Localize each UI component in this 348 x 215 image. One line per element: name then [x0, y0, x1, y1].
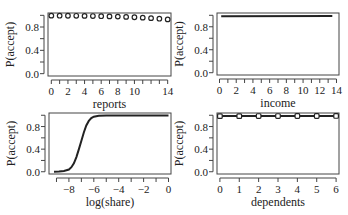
x-tick-label: 5: [314, 183, 320, 195]
data-point: [49, 13, 54, 18]
x-tick-label: 12: [314, 84, 325, 96]
x-tick-label: 6: [267, 84, 273, 96]
x-tick-label: 0: [49, 85, 55, 97]
data-point: [132, 15, 137, 20]
data-point: [157, 16, 162, 21]
data-point: [295, 114, 300, 119]
data-point: [82, 14, 87, 19]
x-axis-label: dependents: [251, 195, 305, 209]
plot-frame: [217, 113, 339, 174]
effect-plots-figure: 0.00.40.8024681014reportsP(accept) 0.00.…: [0, 0, 348, 215]
data-point: [91, 14, 96, 19]
x-tick-label: 2: [256, 183, 262, 195]
y-tick-label: 0.8: [26, 121, 40, 133]
x-tick-label: 0: [166, 183, 172, 195]
y-tick-label: 0.8: [25, 21, 39, 33]
panel-dependents: 0.00.40.80123456dependentsP(accept): [172, 113, 339, 209]
x-tick-label: −8: [63, 183, 75, 195]
y-tick-label: 0.4: [25, 44, 39, 56]
data-point: [149, 16, 154, 21]
x-tick-label: 6: [333, 183, 339, 195]
data-point: [276, 114, 281, 119]
x-tick-label: 3: [275, 183, 281, 195]
data-point: [107, 14, 112, 19]
x-tick-label: −2: [138, 183, 150, 195]
plot-frame: [217, 13, 339, 75]
x-axis-label: reports: [93, 97, 127, 111]
x-tick-label: 10: [298, 84, 310, 96]
x-tick-label: 0: [217, 183, 223, 195]
y-tick-label: 0.4: [26, 143, 40, 155]
data-point: [57, 13, 62, 18]
data-point: [74, 14, 79, 19]
x-tick-label: 14: [162, 85, 174, 97]
x-tick-label: 0: [217, 84, 223, 96]
data-point: [165, 17, 170, 22]
x-tick-label: 4: [295, 183, 301, 195]
y-tick-label: 0.4: [194, 143, 208, 155]
x-tick-label: 2: [233, 84, 239, 96]
y-tick-label: 0.0: [194, 166, 208, 178]
plot-frame: [48, 13, 171, 76]
data-point: [314, 114, 319, 119]
y-axis-label: P(accept): [4, 121, 18, 166]
y-axis-label: P(accept): [172, 121, 186, 166]
x-tick-label: 4: [82, 85, 88, 97]
x-tick-label: 8: [284, 84, 290, 96]
x-tick-label: −6: [88, 183, 100, 195]
x-tick-label: −4: [113, 183, 125, 195]
data-line: [54, 115, 169, 171]
x-tick-label: 14: [331, 84, 343, 96]
plot-frame: [49, 113, 171, 174]
data-point: [124, 15, 129, 20]
panel-log-share: 0.00.40.8−8−6−4−20log(share)P(accept): [4, 113, 172, 209]
data-point: [99, 14, 104, 19]
y-axis-label: P(accept): [3, 22, 17, 67]
y-tick-label: 0.8: [194, 121, 208, 133]
data-point: [256, 114, 261, 119]
y-axis-label: P(accept): [172, 21, 186, 66]
data-point: [140, 15, 145, 20]
x-axis-label: income: [260, 96, 295, 110]
x-tick-label: 8: [115, 85, 121, 97]
y-tick-label: 0.8: [194, 21, 208, 33]
y-tick-label: 0.0: [194, 67, 208, 79]
data-point: [237, 114, 242, 119]
data-point: [66, 13, 71, 18]
data-point: [334, 114, 339, 119]
data-point: [218, 114, 223, 119]
y-tick-label: 0.0: [25, 68, 39, 80]
x-axis-label: log(share): [86, 195, 135, 209]
x-tick-label: 6: [98, 85, 104, 97]
x-tick-label: 1: [237, 183, 243, 195]
y-tick-label: 0.4: [194, 44, 208, 56]
x-tick-label: 2: [65, 85, 71, 97]
panel-reports: 0.00.40.8024681014reportsP(accept): [3, 13, 174, 111]
y-tick-label: 0.0: [26, 166, 40, 178]
x-tick-label: 4: [250, 84, 256, 96]
x-tick-label: 10: [129, 85, 141, 97]
panel-income: 0.00.40.802468101214incomeP(accept): [172, 13, 342, 110]
data-point: [116, 14, 121, 19]
